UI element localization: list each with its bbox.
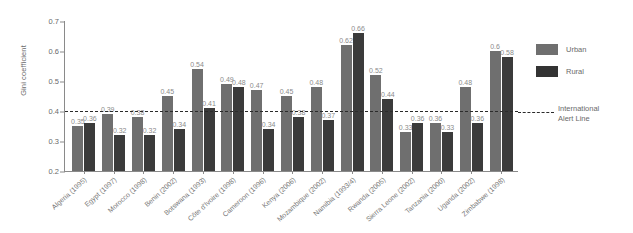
bar-value-label: 0.34 — [262, 121, 276, 128]
bar-urban: 0.33 — [400, 132, 411, 171]
bar-value-label: 0.33 — [399, 124, 413, 131]
bar-value-label: 0.41 — [202, 100, 216, 107]
bar-value-label: 0.36 — [411, 115, 425, 122]
bar-rural: 0.48 — [233, 87, 244, 171]
bar-value-label: 0.58 — [500, 49, 514, 56]
bar-rural: 0.32 — [114, 135, 125, 171]
bar-rural: 0.32 — [144, 135, 155, 171]
bar-group: 0.470.34 — [248, 21, 278, 171]
bar-group: 0.450.38 — [278, 21, 308, 171]
bar-urban: 0.49 — [221, 84, 232, 171]
bar-value-label: 0.32 — [113, 127, 127, 134]
bar-value-label: 0.36 — [83, 115, 97, 122]
legend-item-rural: Rural — [536, 66, 586, 77]
bar-urban: 0.36 — [430, 123, 441, 171]
bar-group: 0.480.36 — [456, 21, 486, 171]
alert-line-annotation-line2: Alert Line — [558, 114, 599, 124]
bar-value-label: 0.33 — [441, 124, 455, 131]
bar-rural: 0.36 — [472, 123, 483, 171]
y-tick-0.2: 0.2 — [29, 167, 65, 176]
bar-value-label: 0.37 — [321, 112, 335, 119]
bar-group: 0.350.36 — [69, 21, 99, 171]
y-tick-0.7: 0.7 — [29, 17, 65, 26]
bar-value-label: 0.52 — [369, 67, 383, 74]
bar-urban: 0.47 — [251, 90, 262, 171]
bar-value-label: 0.47 — [250, 82, 264, 89]
bar-rural: 0.36 — [412, 123, 423, 171]
bar-rural: 0.37 — [323, 120, 334, 171]
bar-urban: 0.38 — [132, 117, 143, 171]
bar-value-label: 0.54 — [190, 61, 204, 68]
bar-rural: 0.44 — [382, 99, 393, 171]
bar-value-label: 0.48 — [458, 79, 472, 86]
legend: Urban Rural — [536, 44, 586, 88]
bar-value-label: 0.48 — [309, 79, 323, 86]
legend-swatch-rural — [536, 66, 558, 77]
bar-rural: 0.33 — [442, 132, 453, 171]
bar-group: 0.450.34 — [158, 21, 188, 171]
bar-value-label: 0.34 — [172, 121, 186, 128]
legend-label-rural: Rural — [566, 67, 584, 76]
bar-rural: 0.34 — [263, 129, 274, 171]
legend-item-urban: Urban — [536, 44, 586, 55]
bar-urban: 0.45 — [281, 96, 292, 171]
bar-value-label: 0.45 — [280, 88, 294, 95]
bar-urban: 0.45 — [162, 96, 173, 171]
y-tick-0.6: 0.6 — [29, 47, 65, 56]
plot-area: 0.7 0.6 0.5 0.4 0.3 0.2 0.350.360.390.32… — [64, 21, 518, 172]
bar-group: 0.520.44 — [367, 21, 397, 171]
bar-group: 0.380.32 — [129, 21, 159, 171]
bar-rural: 0.58 — [502, 57, 513, 171]
x-axis-labels: Algeria (1995)Egypt (1997)Morocco (1998)… — [64, 174, 518, 232]
bar-group: 0.390.32 — [99, 21, 129, 171]
bar-urban: 0.35 — [72, 126, 83, 171]
bar-urban: 0.54 — [192, 69, 203, 171]
bar-value-label: 0.44 — [381, 91, 395, 98]
bar-urban: 0.39 — [102, 114, 113, 171]
bar-value-label: 0.32 — [143, 127, 157, 134]
y-tick-0.3: 0.3 — [29, 137, 65, 146]
bar-group: 0.490.48 — [218, 21, 248, 171]
bar-rural: 0.41 — [204, 108, 215, 171]
bar-rural: 0.36 — [84, 123, 95, 171]
bar-value-label: 0.45 — [160, 88, 174, 95]
bar-urban: 0.48 — [311, 87, 322, 171]
y-tick-0.4: 0.4 — [29, 107, 65, 116]
alert-line-annotation-line1: International — [558, 104, 599, 114]
bar-group: 0.60.58 — [486, 21, 516, 171]
bar-value-label: 0.36 — [429, 115, 443, 122]
y-tick-0.5: 0.5 — [29, 77, 65, 86]
bar-value-label: 0.66 — [351, 25, 365, 32]
bar-urban: 0.48 — [460, 87, 471, 171]
international-alert-line — [65, 111, 518, 112]
x-tick-label-text: Algeria (1995) — [50, 176, 87, 211]
x-tick-label: Zimbabwe (1998) — [486, 174, 516, 232]
bar-value-label: 0.48 — [232, 79, 246, 86]
bar-urban: 0.52 — [370, 75, 381, 171]
bar-value-label: 0.6 — [490, 43, 500, 50]
bar-group: 0.360.33 — [427, 21, 457, 171]
bar-rural: 0.34 — [174, 129, 185, 171]
bar-group: 0.480.37 — [307, 21, 337, 171]
y-axis-label: Gini coefficient — [19, 26, 28, 116]
bar-value-label: 0.36 — [470, 115, 484, 122]
bar-groups: 0.350.360.390.320.380.320.450.340.540.41… — [65, 21, 518, 171]
bar-group: 0.540.41 — [188, 21, 218, 171]
bar-group: 0.330.36 — [397, 21, 427, 171]
bar-value-label: 0.62 — [339, 37, 353, 44]
bar-urban: 0.62 — [341, 45, 352, 171]
alert-line-extension — [518, 112, 554, 113]
bar-rural: 0.38 — [293, 117, 304, 171]
legend-label-urban: Urban — [566, 45, 586, 54]
legend-swatch-urban — [536, 44, 558, 55]
bar-group: 0.620.66 — [337, 21, 367, 171]
bar-rural: 0.66 — [353, 33, 364, 171]
gini-coefficient-bar-chart: Gini coefficient 0.7 0.6 0.5 0.4 0.3 0.2… — [0, 0, 633, 233]
alert-line-annotation: International Alert Line — [558, 104, 599, 124]
